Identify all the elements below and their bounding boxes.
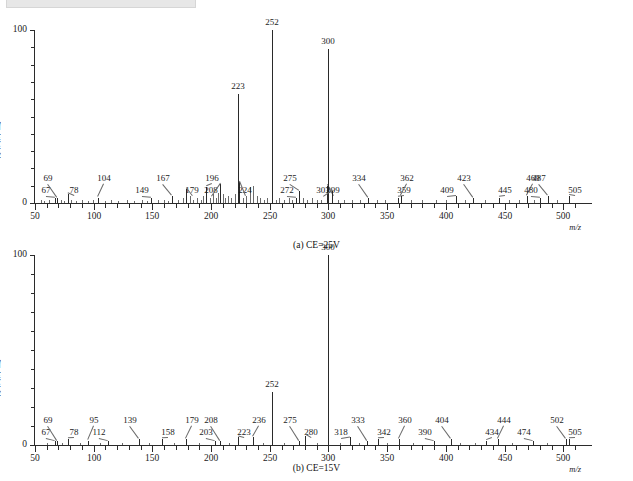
x-axis-tick-label: 450 xyxy=(490,453,520,463)
x-axis-tick-label: 450 xyxy=(490,211,520,221)
peak-label: 275 xyxy=(276,415,304,425)
x-axis-minor-tick xyxy=(399,446,400,450)
spectrum-peak-labeled xyxy=(299,191,300,203)
y-axis-minor-tick xyxy=(31,407,34,408)
x-axis-major-tick xyxy=(387,446,388,452)
spectrum-peak xyxy=(183,198,184,203)
spectrum-peak xyxy=(387,443,388,445)
x-axis-minor-tick xyxy=(399,204,400,208)
x-axis-major-tick xyxy=(446,204,447,210)
x-axis-minor-tick xyxy=(540,446,541,450)
spectrum-peak xyxy=(225,198,226,203)
spectrum-peak-labeled xyxy=(434,441,435,445)
peak-label: 487 xyxy=(525,173,553,183)
spectrum-peak xyxy=(168,201,169,203)
spectrum-peak xyxy=(243,198,244,203)
spectrum-peak xyxy=(105,201,106,203)
peak-label: 505 xyxy=(561,185,589,195)
spectrum-peak xyxy=(276,200,277,203)
y-axis-minor-tick xyxy=(31,65,34,66)
x-axis-minor-tick xyxy=(364,446,365,450)
x-axis-minor-tick xyxy=(141,446,142,450)
x-axis-minor-tick xyxy=(317,446,318,450)
peak-label: 167 xyxy=(149,173,177,183)
header-banner-artifact xyxy=(6,0,196,8)
spectrum-peak-labeled xyxy=(566,439,567,445)
y-axis-minor-tick xyxy=(31,369,34,370)
spectrum-peak xyxy=(413,443,414,445)
x-axis-minor-tick xyxy=(422,446,423,450)
spectrum-peak xyxy=(88,201,89,203)
y-axis-tick-label: 0 xyxy=(5,197,27,207)
x-axis-minor-tick xyxy=(458,204,459,208)
x-axis-minor-tick xyxy=(129,204,130,208)
spectrum-peak xyxy=(557,200,558,203)
y-axis-major-tick xyxy=(30,445,34,446)
spectrum-peak xyxy=(284,443,285,445)
x-axis-minor-tick xyxy=(117,446,118,450)
peak-label: 104 xyxy=(90,173,118,183)
spectrum-peak-labeled xyxy=(186,439,187,445)
y-axis-minor-tick xyxy=(31,350,34,351)
x-axis-minor-tick xyxy=(552,204,553,208)
spectrum-peak xyxy=(93,200,94,203)
x-axis-minor-tick xyxy=(434,204,435,208)
spectrum-panel-b: 0100相对丰度/%50100150200250300350400450500m… xyxy=(0,243,633,481)
x-axis-tick-label: 400 xyxy=(431,211,461,221)
spectrum-peak-labeled xyxy=(57,441,58,445)
spectrum-peak xyxy=(71,200,72,203)
spectrum-peak xyxy=(199,443,200,445)
spectrum-peak-labeled xyxy=(139,439,140,445)
spectrum-peak xyxy=(111,200,112,203)
spectrum-peak-labeled xyxy=(401,196,402,203)
spectrum-peak xyxy=(229,443,230,445)
spectrum-peak-labeled xyxy=(378,439,379,445)
peak-label: 303 xyxy=(309,185,337,195)
x-axis-minor-tick xyxy=(317,204,318,208)
peak-label: 69 xyxy=(34,173,62,183)
spectrum-peak-labeled xyxy=(527,196,528,203)
x-axis-major-tick xyxy=(94,446,95,452)
y-axis-minor-tick xyxy=(31,151,34,152)
y-axis-minor-tick xyxy=(31,293,34,294)
x-axis-minor-tick xyxy=(70,204,71,208)
spectrum-peak xyxy=(142,200,143,203)
spectrum-peak xyxy=(64,201,65,203)
x-axis-tick-label: 350 xyxy=(372,453,402,463)
peak-label: 409 xyxy=(433,185,461,195)
x-axis-minor-tick xyxy=(282,446,283,450)
x-axis-tick-label: 150 xyxy=(137,453,167,463)
peak-label: 474 xyxy=(510,427,538,437)
spectrum-peak-labeled xyxy=(350,437,351,445)
x-axis-major-tick xyxy=(387,204,388,210)
x-axis-tick-label: 300 xyxy=(313,453,343,463)
spectrum-peak-labeled xyxy=(220,441,221,445)
peak-label: 78 xyxy=(60,185,88,195)
x-axis-minor-tick xyxy=(47,204,48,208)
x-axis-tick-label: 200 xyxy=(196,453,226,463)
x-axis-minor-tick xyxy=(575,446,576,450)
spectrum-peak xyxy=(284,200,285,203)
spectrum-peak xyxy=(267,198,268,203)
spectrum-peak-labeled xyxy=(299,441,300,445)
spectrum-peak-labeled xyxy=(498,439,499,445)
x-axis-minor-tick xyxy=(246,446,247,450)
spectrum-peak-labeled xyxy=(68,194,69,203)
peak-label: 95 xyxy=(80,415,108,425)
spectrum-peak-labeled xyxy=(272,30,273,203)
peak-label: 149 xyxy=(128,185,156,195)
x-axis-minor-tick xyxy=(375,204,376,208)
spectrum-peak xyxy=(317,200,318,203)
spectrum-peak xyxy=(385,200,386,203)
peak-label-leader xyxy=(357,426,367,441)
x-axis-minor-tick xyxy=(469,204,470,208)
spectrum-peak xyxy=(475,443,476,445)
spectrum-peak-labeled xyxy=(499,198,500,203)
x-axis-minor-tick xyxy=(575,204,576,208)
peak-label-leader xyxy=(99,438,108,441)
peak-label: 300 xyxy=(314,36,342,46)
x-axis-minor-tick xyxy=(176,204,177,208)
spectrum-peak xyxy=(465,200,466,203)
peak-label: 208 xyxy=(197,415,225,425)
x-axis-minor-tick xyxy=(235,446,236,450)
